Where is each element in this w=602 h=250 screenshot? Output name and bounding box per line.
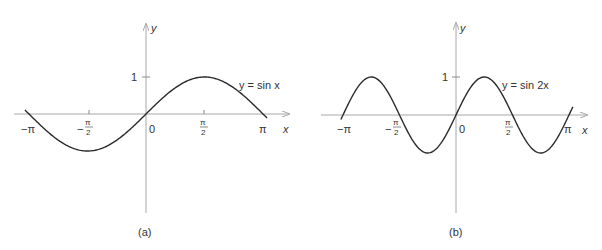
tick-label-one-a: 1 xyxy=(131,71,137,83)
tick-label-neg-pi-b: −π xyxy=(337,123,351,135)
tick-label-half-a-den: 2 xyxy=(201,128,206,137)
tick-label-neg-half-a-minus: − xyxy=(77,123,83,135)
tick-label-neg-half-b-minus: − xyxy=(385,123,391,135)
tick-label-half-b-den: 2 xyxy=(506,128,511,137)
y-axis-label-a: y xyxy=(150,22,158,34)
panel-label-b: (b) xyxy=(449,226,462,238)
chart-b: y x 1 −π − π 2 0 π 2 π y = sin 2x (b) xyxy=(321,22,588,238)
curve-label-b: y = sin 2x xyxy=(502,79,549,91)
y-axis-label-b: y xyxy=(459,22,467,34)
tick-label-half-b-num: π xyxy=(505,118,511,127)
tick-label-neg-half-a-den: 2 xyxy=(86,128,91,137)
curve-label-a: y = sin x xyxy=(239,79,280,91)
tick-label-half-a-num: π xyxy=(200,118,206,127)
tick-label-zero-b: 0 xyxy=(459,123,465,135)
tick-label-neg-half-b-num: π xyxy=(393,118,399,127)
tick-label-pi-a: π xyxy=(259,123,267,135)
panel-label-a: (a) xyxy=(138,226,151,238)
tick-label-zero-a: 0 xyxy=(149,123,155,135)
figure: y x 1 −π − π 2 0 π 2 π y = sin x (a) y x… xyxy=(0,0,602,250)
tick-label-neg-pi-a: −π xyxy=(21,123,35,135)
tick-label-pi-b: π xyxy=(564,123,572,135)
tick-label-neg-half-a-num: π xyxy=(85,118,91,127)
tick-label-one-b: 1 xyxy=(442,71,448,83)
chart-a: y x 1 −π − π 2 0 π 2 π y = sin x (a) xyxy=(14,22,289,238)
x-axis-label-a: x xyxy=(282,123,289,135)
tick-label-neg-half-b-den: 2 xyxy=(394,128,399,137)
x-axis-label-b: x xyxy=(581,124,588,136)
